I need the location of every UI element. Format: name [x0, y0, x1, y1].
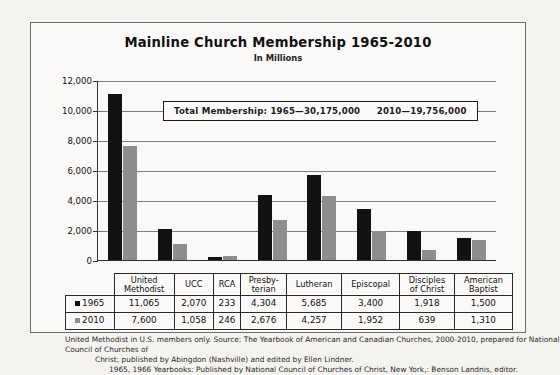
table-column-header: Episcopal	[342, 274, 400, 296]
series-legend-2010: 2010	[66, 313, 115, 330]
bar-group	[98, 81, 148, 260]
chart-subtitle: In Millions	[31, 53, 525, 63]
y-axis-tick-label: 6,000	[67, 166, 92, 176]
table-cell: 11,065	[114, 296, 174, 313]
total-membership-2010: 2010—19,756,000	[377, 106, 467, 116]
bar-2010	[173, 244, 187, 260]
bar-2010	[322, 196, 336, 260]
legend-swatch-1965	[75, 301, 80, 306]
y-axis-tick-label: 0	[87, 256, 92, 266]
table-cell: 1,918	[400, 296, 455, 313]
table-corner-cell	[66, 274, 115, 296]
bar-1965	[357, 209, 371, 260]
table-column-header: AmericanBaptist	[454, 274, 512, 296]
bar-2010	[422, 250, 436, 260]
table-cell: 2,070	[174, 296, 213, 313]
bar-1965	[407, 231, 421, 260]
table-cell: 1,058	[174, 313, 213, 330]
bar-2010	[372, 231, 386, 260]
y-axis-tick-label: 12,000	[62, 76, 92, 86]
table-cell: 1,310	[454, 313, 512, 330]
chart-frame: Mainline Church Membership 1965-2010 In …	[30, 22, 526, 333]
bar-1965	[307, 175, 321, 260]
bar-1965	[457, 238, 471, 261]
table-row: 20107,6001,0582462,6764,2571,9526391,310	[66, 313, 513, 330]
table-cell: 246	[213, 313, 240, 330]
chart-title: Mainline Church Membership 1965-2010	[31, 35, 525, 50]
footnote-line-4: 1965, 1966 Yearbooks: Published by Natio…	[65, 365, 560, 375]
bar-2010	[472, 240, 486, 260]
table-cell: 1,500	[454, 296, 512, 313]
table-column-header: Disciplesof Christ	[400, 274, 455, 296]
table-column-header: UnitedMethodist	[114, 274, 174, 296]
table-cell: 233	[213, 296, 240, 313]
bar-2010	[223, 256, 237, 260]
footnote-line-1: United Methodist in U.S. members only.	[65, 335, 211, 344]
table-cell: 2,676	[241, 313, 287, 330]
y-axis-tick-label: 4,000	[67, 196, 92, 206]
table-cell: 1,952	[342, 313, 400, 330]
table-header-row: UnitedMethodistUCCRCAPresby-terianLuther…	[66, 274, 513, 296]
table-cell: 7,600	[114, 313, 174, 330]
total-membership-1965: 1965—30,175,000	[270, 106, 360, 116]
table-cell: 5,685	[287, 296, 342, 313]
bar-1965	[158, 229, 172, 260]
table-cell: 639	[400, 313, 455, 330]
table-cell: 4,257	[287, 313, 342, 330]
y-axis-tick-mark	[93, 261, 98, 262]
table-row: 196511,0652,0702334,3045,6853,4001,9181,…	[66, 296, 513, 313]
bar-2010	[123, 146, 137, 260]
data-table: UnitedMethodistUCCRCAPresby-terianLuther…	[65, 273, 513, 330]
total-membership-box: Total Membership: 1965—30,175,000 2010—1…	[163, 101, 478, 121]
y-axis-tick-label: 8,000	[67, 136, 92, 146]
table-cell: 4,304	[241, 296, 287, 313]
table-column-header: Lutheran	[287, 274, 342, 296]
footnote-line-3: Christ; published by Abingdon (Nashville…	[65, 355, 560, 365]
table-column-header: Presby-terian	[241, 274, 287, 296]
y-axis-tick-label: 2,000	[67, 226, 92, 236]
total-membership-label: Total Membership:	[174, 106, 267, 116]
bar-1965	[258, 195, 272, 260]
y-axis-tick-label: 10,000	[62, 106, 92, 116]
table-column-header: UCC	[174, 274, 213, 296]
series-legend-1965: 1965	[66, 296, 115, 313]
legend-swatch-2010	[75, 318, 80, 323]
bar-2010	[273, 220, 287, 260]
bar-1965	[108, 94, 122, 260]
footnotes: United Methodist in U.S. members only. S…	[65, 335, 560, 375]
bar-1965	[208, 257, 222, 260]
table-cell: 3,400	[342, 296, 400, 313]
table-column-header: RCA	[213, 274, 240, 296]
